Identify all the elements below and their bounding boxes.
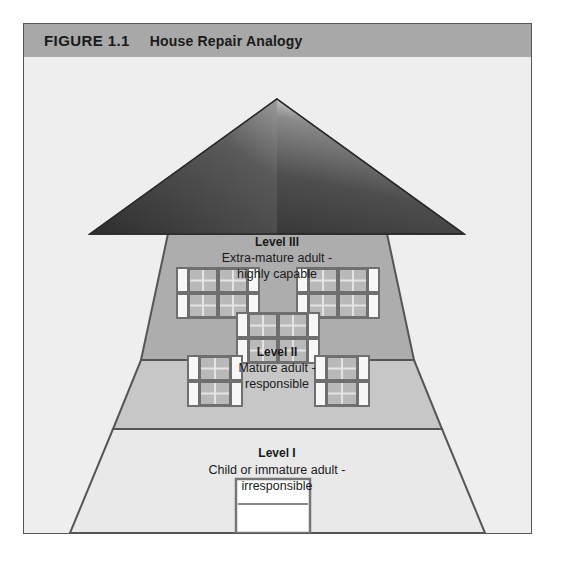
level-1-desc-line1: Child or immature adult - [209,463,346,477]
level-2-desc-line2: responsible [245,377,309,391]
level-2-desc-line1: Mature adult - [238,361,315,375]
level-1-title: Level I [258,446,295,460]
level-3-title: Level III [255,235,299,249]
house-illustration: Level III Extra-mature adult - highly ca… [24,57,531,533]
level-2-title: Level II [257,345,298,359]
window-level2-left [187,355,243,407]
figure-number: FIGURE 1.1 [44,32,130,49]
level-1-desc-line2: irresponsible [242,479,313,493]
roof [90,99,464,234]
figure-header-bar: FIGURE 1.1 House Repair Analogy [24,24,531,57]
level-3-desc-line1: Extra-mature adult - [222,251,332,265]
figure-panel: FIGURE 1.1 House Repair Analogy [23,23,532,534]
window-level2-right [314,355,370,407]
level-3-desc-line2: highly capable [237,267,317,281]
figure-title: House Repair Analogy [150,33,303,49]
